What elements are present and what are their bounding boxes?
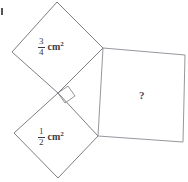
fraction-numerator: 3 [38,37,45,48]
figure-canvas [0,0,188,182]
lower-left-square-area-label: 1 2 cm2 [38,127,64,147]
unit-text: cm [48,131,61,142]
fraction-three-quarters: 3 4 [38,37,45,57]
unit-label: cm2 [48,42,64,52]
fraction-numerator: 1 [38,127,45,138]
right-square-unknown-label: ? [139,90,145,101]
unit-text: cm [48,41,61,52]
fraction-one-half: 1 2 [38,127,45,147]
upper-left-square-area-label: 3 4 cm2 [38,37,64,57]
unit-label: cm2 [48,132,64,142]
fraction-denominator: 4 [38,48,45,58]
right-angle-marker [58,86,75,103]
corner-artifact-tick [1,8,3,15]
fraction-denominator: 2 [38,138,45,148]
geometry-figure: 3 4 cm2 1 2 cm2 ? [0,0,188,182]
unit-exponent: 2 [60,130,64,138]
unit-exponent: 2 [60,40,64,48]
